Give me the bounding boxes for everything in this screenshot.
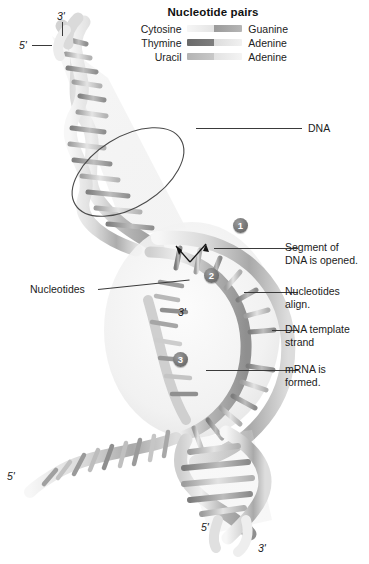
step-badge-3: 3 <box>173 352 188 367</box>
legend-left-label-1: Thymine <box>118 37 187 49</box>
leader-line-dna <box>196 128 302 129</box>
legend-left-label-0: Cytosine <box>118 23 187 35</box>
legend-bar-2 <box>187 53 243 60</box>
legend-bar-0-right-half <box>214 25 242 32</box>
dna-helix-illustration <box>0 0 369 564</box>
legend-row-uracil-adenine: Uracil Adenine <box>118 50 308 63</box>
legend-bar-1 <box>187 39 243 46</box>
step-badge-1: 1 <box>233 218 248 233</box>
end-label-middle-3prime: 3' <box>178 306 186 318</box>
legend-bar-1-right-half <box>214 39 242 46</box>
end-label-bottom-3prime: 3' <box>258 542 266 554</box>
legend-left-label-2: Uracil <box>118 51 187 63</box>
end-label-top-3prime: 3' <box>57 10 65 22</box>
legend-bar-2-left-half <box>187 53 215 60</box>
leader-line-top-3prime <box>62 22 63 36</box>
end-label-top-5prime: 5' <box>19 39 27 51</box>
legend: Nucleotide pairs Cytosine Guanine Thymin… <box>118 6 308 64</box>
legend-right-label-0: Guanine <box>242 23 308 35</box>
callout-nucleotides-align: Nucleotides align. <box>285 285 340 310</box>
legend-right-label-2: Adenine <box>242 51 308 63</box>
legend-bar-2-right-half <box>214 53 242 60</box>
end-label-left-5prime: 5' <box>7 470 15 482</box>
step-badge-2: 2 <box>204 268 219 283</box>
legend-bar-0 <box>187 25 243 32</box>
callout-mrna-formed: mRNA is formed. <box>285 363 326 388</box>
leader-line-top-5prime <box>32 45 52 46</box>
legend-row-cytosine-guanine: Cytosine Guanine <box>118 22 308 35</box>
callout-nucleotides: Nucleotides <box>30 283 85 296</box>
leader-line-nucleotides <box>98 279 190 290</box>
callout-dna: DNA <box>308 122 330 135</box>
legend-bar-0-left-half <box>187 25 215 32</box>
callout-dna-template: DNA template strand <box>285 323 350 348</box>
legend-bar-1-left-half <box>187 39 215 46</box>
legend-row-thymine-adenine: Thymine Adenine <box>118 36 308 49</box>
legend-right-label-1: Adenine <box>242 37 308 49</box>
callout-segment-opened: Segment of DNA is opened. <box>285 241 358 266</box>
end-label-bottom-5prime: 5' <box>201 521 209 533</box>
diagram-canvas: Nucleotide pairs Cytosine Guanine Thymin… <box>0 0 369 564</box>
legend-title: Nucleotide pairs <box>118 6 308 18</box>
